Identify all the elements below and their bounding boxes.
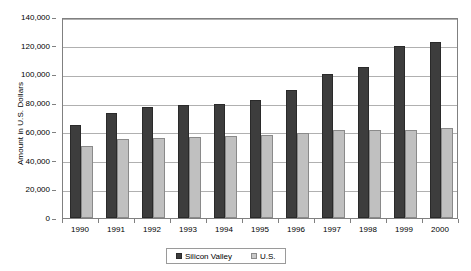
bars-layer <box>63 19 457 218</box>
bar-us <box>441 128 453 218</box>
y-axis-tick-label: 80,000 <box>0 100 50 108</box>
bar-silicon-valley <box>106 113 118 218</box>
bar-us <box>297 133 309 218</box>
x-axis-tick-mark <box>134 219 135 223</box>
bar-us <box>261 135 273 218</box>
x-axis-tick-mark <box>386 219 387 223</box>
bar-group <box>250 19 273 218</box>
bar-group <box>142 19 165 218</box>
bar-silicon-valley <box>250 100 262 218</box>
x-axis-tick-mark <box>350 219 351 223</box>
y-axis-tick-mark <box>52 219 56 220</box>
x-axis-tick-label: 1999 <box>386 225 422 235</box>
x-axis-tick-mark <box>206 219 207 223</box>
y-axis-tick-label: 20,000 <box>0 186 50 194</box>
x-axis-tick-mark <box>458 219 459 223</box>
y-axis-tick-mark <box>52 161 56 162</box>
bar-us <box>225 136 237 218</box>
plot-area <box>62 18 458 219</box>
bar-group <box>286 19 309 218</box>
x-axis-tick-mark <box>422 219 423 223</box>
bar-us <box>189 137 201 218</box>
bar-group <box>106 19 129 218</box>
bar-us <box>153 138 165 218</box>
y-axis-tick-mark <box>52 46 56 47</box>
bar-silicon-valley <box>214 104 226 218</box>
bar-group <box>178 19 201 218</box>
bar-us <box>81 146 93 218</box>
legend-swatch-us <box>251 253 257 259</box>
bar-group <box>322 19 345 218</box>
y-axis-tick-mark <box>52 18 56 19</box>
bar-silicon-valley <box>70 125 82 218</box>
bar-silicon-valley <box>286 90 298 218</box>
bar-group <box>70 19 93 218</box>
bar-silicon-valley <box>394 46 406 218</box>
bar-silicon-valley <box>178 105 190 218</box>
y-axis-tick-label: 120,000 <box>0 43 50 51</box>
y-axis-tick-mark <box>52 75 56 76</box>
bar-us <box>369 130 381 218</box>
y-axis-tick-label: 140,000 <box>0 14 50 22</box>
x-axis-tick-label: 1991 <box>98 225 134 235</box>
x-axis-tick-mark <box>170 219 171 223</box>
x-axis-tick-label: 1992 <box>134 225 170 235</box>
x-axis-tick-label: 2000 <box>422 225 458 235</box>
bar-group <box>394 19 417 218</box>
y-axis-tick-mark <box>52 104 56 105</box>
y-axis-tick-mark <box>52 190 56 191</box>
x-axis-tick-label: 1997 <box>314 225 350 235</box>
bar-silicon-valley <box>430 42 442 218</box>
bar-chart: Amount in U.S. Dollars 020,00040,00060,0… <box>0 0 471 271</box>
y-axis-tick-labels: 020,00040,00060,00080,000100,000120,0001… <box>0 18 56 219</box>
x-axis-tick-label: 1998 <box>350 225 386 235</box>
x-axis-tick-label: 1995 <box>242 225 278 235</box>
bar-group <box>430 19 453 218</box>
bar-us <box>117 139 129 218</box>
bar-us <box>405 130 417 218</box>
legend-entry: U.S. <box>251 252 276 261</box>
legend-label: U.S. <box>260 252 276 261</box>
x-axis-tick-mark <box>278 219 279 223</box>
bar-silicon-valley <box>358 67 370 218</box>
legend-entry: Silicon Valley <box>176 252 232 261</box>
x-axis-tick-mark <box>62 219 63 223</box>
x-axis-tick-label: 1994 <box>206 225 242 235</box>
bar-group <box>358 19 381 218</box>
chart-legend: Silicon ValleyU.S. <box>166 248 286 264</box>
x-axis-tick-mark <box>242 219 243 223</box>
x-axis-tick-mark <box>98 219 99 223</box>
y-axis-tick-mark <box>52 132 56 133</box>
legend-swatch-silicon-valley <box>176 253 182 259</box>
x-axis-tick-label: 1993 <box>170 225 206 235</box>
bar-silicon-valley <box>322 74 334 218</box>
y-axis-tick-label: 40,000 <box>0 158 50 166</box>
bar-us <box>333 130 345 218</box>
x-axis-tick-labels: 1990199119921993199419951996199719981999… <box>62 225 458 237</box>
x-axis-tick-label: 1990 <box>62 225 98 235</box>
x-axis-tick-label: 1996 <box>278 225 314 235</box>
legend-label: Silicon Valley <box>185 252 232 261</box>
y-axis-tick-label: 0 <box>0 215 50 223</box>
x-axis-ticks <box>62 219 458 224</box>
y-axis-tick-label: 100,000 <box>0 71 50 79</box>
y-axis-tick-label: 60,000 <box>0 129 50 137</box>
bar-silicon-valley <box>142 107 154 218</box>
x-axis-tick-mark <box>314 219 315 223</box>
bar-group <box>214 19 237 218</box>
